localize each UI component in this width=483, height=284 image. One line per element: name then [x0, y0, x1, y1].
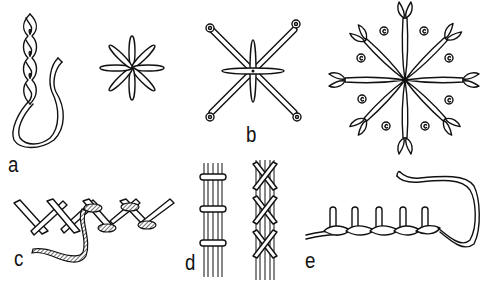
- couched-bundle-straight: [200, 163, 226, 277]
- label-e: e: [305, 250, 315, 272]
- label-b: b: [246, 124, 256, 146]
- twisted-stitch-figure: [306, 172, 479, 247]
- stitch-illustration: a b c d e: [0, 0, 483, 284]
- label-a: a: [8, 154, 18, 176]
- long-arm-star: [206, 20, 301, 121]
- arms: [329, 2, 479, 154]
- label-d: d: [185, 252, 195, 274]
- eight-arm-star: [329, 2, 479, 154]
- lazy-daisy-star: [100, 36, 164, 100]
- twist-segments: [324, 226, 440, 235]
- chain-stitch-figure: [13, 14, 63, 148]
- label-c: c: [14, 248, 23, 270]
- couched-bundle-crossed: [253, 160, 277, 280]
- illustration-svg: [0, 0, 483, 284]
- cross-stitch-figure: [14, 199, 174, 262]
